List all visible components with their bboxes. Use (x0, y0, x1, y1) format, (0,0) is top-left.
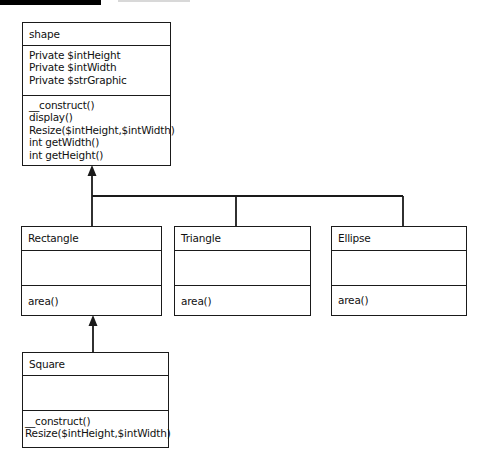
arrowhead-icon (89, 315, 98, 326)
class-attributes (332, 250, 466, 285)
class-name-text: Triangle (181, 232, 221, 244)
method: area() (28, 295, 161, 307)
method: Resize($intHeight,$intWidth) (25, 427, 168, 439)
class-name-text: shape (29, 28, 60, 40)
arrowhead-icon (88, 165, 97, 176)
method: __construct() (25, 415, 168, 427)
class-attributes: Private $intHeight Private $intWidth Pri… (23, 45, 170, 95)
class-methods: area() (332, 285, 466, 314)
class-name: Square (23, 353, 168, 375)
class-name: Triangle (175, 227, 310, 250)
attribute: Private $intHeight (29, 49, 170, 61)
method: area() (181, 295, 310, 307)
class-attributes (22, 250, 161, 285)
class-ellipse: Ellipse area() (331, 226, 467, 316)
method: int getWidth() (29, 136, 170, 148)
class-shape: shape Private $intHeight Private $intWid… (22, 22, 171, 166)
class-name: Rectangle (22, 227, 161, 250)
class-methods: area() (175, 285, 310, 314)
class-rectangle: Rectangle area() (21, 226, 162, 316)
method: Resize($intHeight,$intWidth) (29, 124, 170, 136)
class-methods: __construct() display() Resize($intHeigh… (23, 95, 170, 164)
class-methods: area() (22, 285, 161, 314)
method: __construct() (29, 99, 170, 111)
method: area() (338, 294, 466, 306)
class-methods: __construct() Resize($intHeight,$intWidt… (23, 410, 168, 446)
attribute: Private $strGraphic (29, 74, 170, 86)
class-name: shape (23, 23, 170, 45)
class-name: Ellipse (332, 227, 466, 250)
attribute: Private $intWidth (29, 61, 170, 73)
class-name-text: Rectangle (28, 232, 79, 244)
class-name-text: Square (29, 358, 65, 370)
method: int getHeight() (29, 149, 170, 161)
class-attributes (23, 375, 168, 410)
class-square: Square __construct() Resize($intHeight,$… (22, 352, 169, 448)
class-triangle: Triangle area() (174, 226, 311, 316)
class-attributes (175, 250, 310, 285)
class-name-text: Ellipse (338, 232, 371, 244)
method: display() (29, 111, 170, 123)
